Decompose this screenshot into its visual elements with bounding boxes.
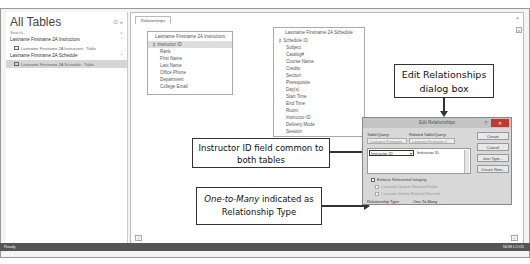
field-row[interactable]: Delivery Mode xyxy=(274,121,364,128)
field-mapping-grid: Instructor ID▾ Instructor ID xyxy=(367,148,471,174)
checkbox-icon xyxy=(375,192,379,196)
field-row[interactable]: Room xyxy=(274,107,364,114)
field-row-key[interactable]: ⚷ Instructor ID xyxy=(148,41,232,48)
nav-item-label: Lastname Firstname 2A Instructors : Tabl… xyxy=(21,46,96,51)
nav-group-label: Lastname Firstname 2A Instructors xyxy=(10,37,80,42)
field-row[interactable]: Rank xyxy=(148,48,232,55)
nav-item-schedule-table[interactable]: Lastname Firstname 2A Schedule : Table xyxy=(6,60,127,68)
field-list-schedule[interactable]: Lastname Firstname 2A Schedule ⚷ Schedul… xyxy=(273,27,365,137)
field-row[interactable]: Catalog# xyxy=(274,51,364,58)
tab-relationships[interactable]: Relationships xyxy=(135,16,171,24)
close-button[interactable]: ✕ xyxy=(491,119,509,127)
right-field-select[interactable]: Instructor ID xyxy=(416,150,460,156)
field-row[interactable]: Department xyxy=(148,76,232,83)
nav-group-schedule[interactable]: Lastname Firstname 2A Schedule ⌃ xyxy=(6,52,127,60)
enforce-referential-integrity-checkbox[interactable]: Enforce Referential Integrity xyxy=(371,177,427,182)
checkbox-icon xyxy=(375,185,379,189)
help-icon[interactable]: ? xyxy=(484,118,487,128)
callout-connector xyxy=(443,98,445,112)
field-row[interactable]: Prerequisite xyxy=(274,79,364,86)
callout-connector xyxy=(330,151,366,153)
field-row[interactable]: College Email xyxy=(148,83,232,90)
create-button[interactable]: Create xyxy=(477,132,509,140)
field-row[interactable]: Course Name xyxy=(274,58,364,65)
field-row[interactable]: Credits xyxy=(274,65,364,72)
create-new-button[interactable]: Create New... xyxy=(477,165,509,173)
cancel-button[interactable]: Cancel xyxy=(477,143,509,151)
dialog-titlebar[interactable]: Edit Relationships ? ✕ xyxy=(363,118,511,128)
table-query-label: Table/Query: xyxy=(367,132,390,137)
callout-edit-dialog: Edit Relationships dialog box xyxy=(394,64,494,98)
related-table-query-select[interactable]: Lastname Firstname 2... xyxy=(409,138,455,144)
nav-group-label: Lastname Firstname 2A Schedule xyxy=(10,53,78,58)
grid-scrollbar[interactable] xyxy=(464,150,469,173)
navigation-pane: All Tables ⊙ « Search... ⌕ Lastname Firs… xyxy=(6,12,128,244)
field-row-key[interactable]: ⚷ Schedule ID xyxy=(274,37,364,44)
nav-item-instructors-table[interactable]: Lastname Firstname 2A Instructors : Tabl… xyxy=(6,44,127,52)
chevron-up-icon: ⌃ xyxy=(120,53,123,58)
field-row[interactable]: Session xyxy=(274,128,364,135)
field-list-title: Lastname Firstname 2A Instructors xyxy=(148,32,232,41)
status-bar: Ready NUM LOCK xyxy=(0,243,530,251)
field-row[interactable]: First Name xyxy=(148,55,232,62)
cascade-delete-checkbox[interactable]: Cascade Delete Related Records xyxy=(375,191,440,196)
scroll-right-button[interactable]: › xyxy=(511,235,518,241)
relationship-type-label: Relationship Type: xyxy=(367,199,400,204)
close-tab-icon[interactable]: × xyxy=(516,15,519,21)
field-row[interactable]: Section xyxy=(274,72,364,79)
field-row[interactable]: Subject xyxy=(274,44,364,51)
search-icon: ⌕ xyxy=(120,29,123,36)
edit-relationships-dialog: Edit Relationships ? ✕ Table/Query: Rela… xyxy=(362,117,512,205)
related-table-query-label: Related Table/Query: xyxy=(409,132,447,137)
nav-pane-controls[interactable]: ⊙ « xyxy=(113,18,123,25)
field-row[interactable]: Last Name xyxy=(148,62,232,69)
field-row[interactable]: Day(s) xyxy=(274,86,364,93)
nav-group-instructors[interactable]: Lastname Firstname 2A Instructors ⌃ xyxy=(6,36,127,44)
callout-one-to-many: One-to-Many indicated as Relationship Ty… xyxy=(196,187,322,225)
chevron-down-icon: ▾ xyxy=(410,151,412,157)
checkbox-icon xyxy=(371,178,375,182)
scroll-up-button[interactable]: ˄ xyxy=(516,27,522,33)
num-lock-indicator: NUM LOCK xyxy=(503,244,524,249)
join-type-button[interactable]: Join Type... xyxy=(477,154,509,162)
field-list-title: Lastname Firstname 2A Schedule xyxy=(274,28,364,37)
dialog-title: Edit Relationships xyxy=(419,120,455,125)
scroll-left-button[interactable]: ‹ xyxy=(135,235,142,241)
nav-item-label: Lastname Firstname 2A Schedule : Table xyxy=(21,62,94,67)
field-list-instructors[interactable]: Lastname Firstname 2A Instructors ⚷ Inst… xyxy=(147,31,233,95)
relationship-type-value: One-To-Many xyxy=(413,199,437,204)
table-icon xyxy=(14,46,19,50)
table-icon xyxy=(14,62,19,66)
status-text: Ready xyxy=(4,244,16,249)
table-query-select[interactable]: Lastname Firstname... xyxy=(367,138,407,144)
callout-instructor-id: Instructor ID field common to both table… xyxy=(192,138,330,168)
nav-search-input[interactable]: Search... ⌕ xyxy=(6,29,127,36)
search-placeholder: Search... xyxy=(10,30,26,35)
field-row[interactable]: Start Time xyxy=(274,93,364,100)
field-row[interactable]: Instructor ID xyxy=(274,114,364,121)
cascade-update-checkbox[interactable]: Cascade Update Related Fields xyxy=(375,184,437,189)
field-row[interactable]: End Time xyxy=(274,100,364,107)
callout-connector xyxy=(322,205,366,207)
field-row[interactable]: Office Phone xyxy=(148,69,232,76)
left-field-select[interactable]: Instructor ID▾ xyxy=(369,150,414,156)
nav-title[interactable]: All Tables xyxy=(6,12,127,29)
chevron-up-icon: ⌃ xyxy=(120,37,123,42)
